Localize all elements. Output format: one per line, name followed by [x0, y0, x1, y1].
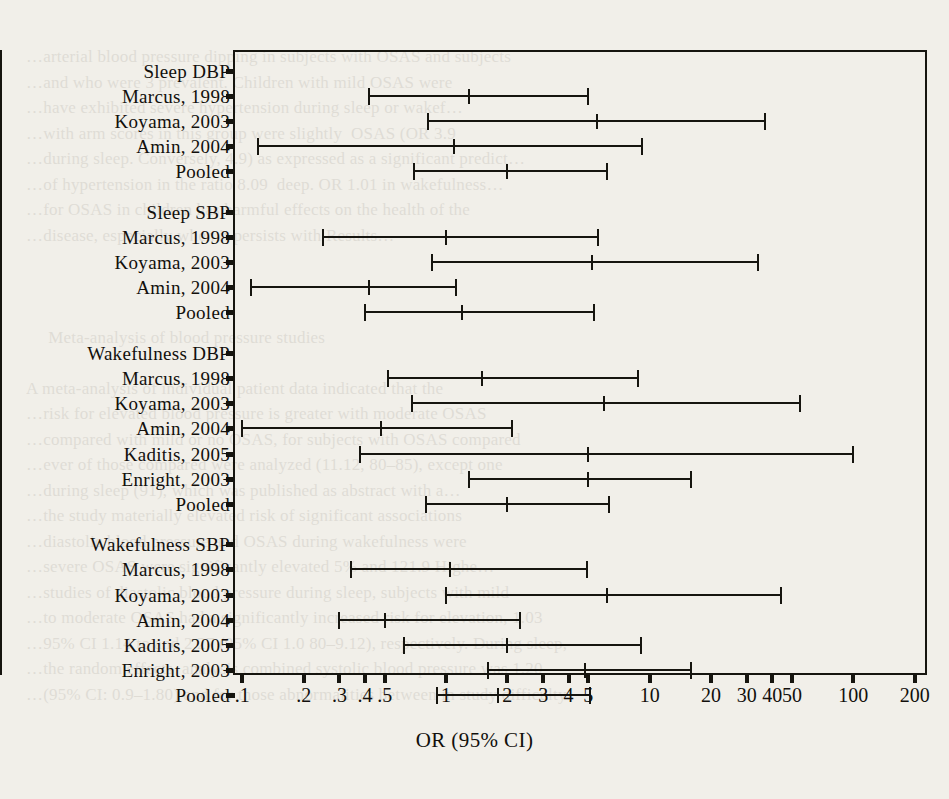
point-estimate-marker [468, 89, 470, 104]
ci-cap-left [487, 662, 489, 679]
x-axis-tick-label: 10 [640, 684, 660, 706]
confidence-interval-line [426, 503, 609, 505]
study-row-label: Marcus, 1998 [122, 87, 230, 106]
ci-cap-right [455, 279, 457, 296]
confidence-interval-line [339, 619, 519, 621]
ci-cap-left [403, 637, 405, 654]
group-heading-label: Wakefulness SBP [90, 535, 230, 554]
ci-cap-left [413, 163, 415, 180]
ci-cap-left [411, 395, 413, 412]
x-axis-tick-label: 30 [737, 684, 757, 706]
point-estimate-marker [368, 280, 370, 295]
ci-cap-right [780, 587, 782, 604]
forest-plot: Sleep DBPMarcus, 1998Koyama, 2003Amin, 2… [0, 0, 949, 799]
point-estimate-marker [461, 305, 463, 320]
ci-cap-left [322, 229, 324, 246]
x-axis-tick-label: 20 [701, 684, 721, 706]
x-axis-tick-label: .1 [235, 684, 250, 706]
study-row-label: Koyama, 2003 [115, 253, 230, 272]
ci-cap-left [387, 370, 389, 387]
ci-cap-right [764, 113, 766, 130]
study-row-label: Amin, 2004 [136, 137, 230, 156]
x-axis-tick-label: .3 [332, 684, 347, 706]
ci-cap-right [690, 471, 692, 488]
point-estimate-marker [380, 421, 382, 436]
confidence-interval-line [323, 236, 598, 238]
x-axis-tick-label: .4 [357, 684, 372, 706]
x-axis-tick [770, 675, 774, 683]
confidence-interval-line [360, 453, 853, 455]
point-estimate-marker [587, 447, 589, 462]
x-axis-tick-label: 100 [838, 684, 868, 706]
ci-cap-left [250, 279, 252, 296]
pooled-row-label: Pooled [175, 495, 230, 514]
ci-cap-left [445, 587, 447, 604]
ci-cap-left [350, 561, 352, 578]
confidence-interval-line [432, 261, 758, 263]
x-axis-tick [337, 675, 341, 683]
ci-cap-right [586, 561, 588, 578]
plot-frame [233, 50, 927, 675]
study-row-label: Kaditis, 2005 [124, 636, 230, 655]
ci-cap-right [597, 229, 599, 246]
x-axis-tick [505, 675, 509, 683]
x-axis-tick [567, 675, 571, 683]
confidence-interval-line [351, 568, 587, 570]
x-axis-tick [709, 675, 713, 683]
point-estimate-marker [506, 497, 508, 512]
point-estimate-marker [506, 638, 508, 653]
x-axis-tick [913, 675, 917, 683]
ci-cap-left [427, 113, 429, 130]
study-row-label: Koyama, 2003 [115, 112, 230, 131]
study-row-label: Marcus, 1998 [122, 228, 230, 247]
x-axis-tick [745, 675, 749, 683]
ci-cap-left [425, 496, 427, 513]
confidence-interval-line [369, 95, 588, 97]
pooled-row-label: Pooled [175, 303, 230, 322]
ci-cap-left [368, 88, 370, 105]
x-axis-tick-label: 4 [564, 684, 574, 706]
ci-cap-left [257, 138, 259, 155]
point-estimate-marker [587, 472, 589, 487]
confidence-interval-line [488, 669, 692, 671]
group-heading-label: Sleep SBP [147, 203, 230, 222]
x-axis-tick [541, 675, 545, 683]
study-row-label: Kaditis, 2005 [124, 445, 230, 464]
point-estimate-marker [384, 613, 386, 628]
point-estimate-marker [497, 688, 499, 703]
confidence-interval-line [388, 377, 638, 379]
x-axis-tick-label: 50 [782, 684, 802, 706]
study-row-label: Koyama, 2003 [115, 586, 230, 605]
confidence-interval-line [242, 427, 511, 429]
x-axis-tick-label: 2 [502, 684, 512, 706]
x-axis-tick-label: .5 [377, 684, 392, 706]
ci-cap-right [587, 88, 589, 105]
confidence-interval-line [365, 311, 594, 313]
point-estimate-marker [506, 164, 508, 179]
ci-cap-right [641, 138, 643, 155]
study-row-label: Marcus, 1998 [122, 560, 230, 579]
pooled-row-label: Pooled [175, 686, 230, 705]
confidence-interval-line [258, 145, 642, 147]
x-axis-tick-label: 200 [900, 684, 930, 706]
ci-cap-left [338, 612, 340, 629]
ci-cap-right [757, 254, 759, 271]
confidence-interval-line [414, 170, 607, 172]
confidence-interval-line [446, 594, 781, 596]
study-row-label: Koyama, 2003 [115, 394, 230, 413]
study-row-label: Enright, 2003 [122, 470, 230, 489]
confidence-interval-line [412, 402, 801, 404]
point-estimate-marker [449, 562, 451, 577]
ci-cap-left [364, 304, 366, 321]
ci-cap-right [608, 496, 610, 513]
point-estimate-marker [591, 255, 593, 270]
ci-cap-right [519, 612, 521, 629]
ci-cap-right [511, 420, 513, 437]
pooled-row-label: Pooled [175, 162, 230, 181]
study-row-label: Amin, 2004 [136, 611, 230, 630]
x-axis-tick [444, 675, 448, 683]
reference-line [0, 50, 2, 675]
x-axis-title: OR (95% CI) [0, 728, 949, 753]
group-heading-label: Wakefulness DBP [87, 344, 230, 363]
x-axis-tick [302, 675, 306, 683]
